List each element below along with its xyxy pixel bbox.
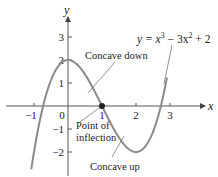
y-axis-label: y [63,3,70,17]
y-tick-label: −1 [52,123,64,135]
y-tick-marks [68,37,72,152]
y-tick-label: −2 [52,146,64,158]
inflection-label: inflection [76,132,117,143]
y-tick-label: 1 [59,77,65,89]
x-tick-label: 0 [59,109,65,121]
concave-down-leader [88,62,115,93]
point-of-label: Point of [76,120,110,131]
equation-leader [164,45,172,84]
concave-up-label: Concave up [90,161,140,172]
x-tick-label: 3 [167,109,173,121]
x-tick-label: 2 [133,109,139,121]
x-tick-label: −1 [25,109,37,121]
x-axis-label: x [207,99,214,113]
cubic-function-graph: −10123 321−1−2 x y y = x3 − 3x2 + 2 Conc… [0,0,218,177]
equation-label: y = x3 − 3x2 + 2 [136,31,211,46]
concave-down-label: Concave down [85,50,148,61]
inflection-point-marker [99,103,105,109]
y-tick-label: 3 [59,31,65,43]
y-tick-labels: 321−1−2 [52,31,64,158]
